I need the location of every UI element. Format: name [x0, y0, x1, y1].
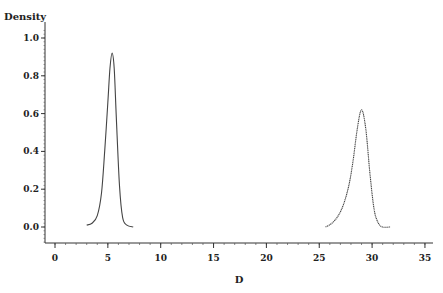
x-tick-label: 35: [419, 253, 432, 263]
x-tick-label: 30: [366, 253, 379, 263]
y-tick-label: 0.2: [23, 184, 39, 194]
y-tick-label: 0.0: [23, 222, 39, 232]
plot-area: [87, 53, 390, 227]
y-tick-label: 1.0: [23, 33, 39, 43]
x-tick-label: 20: [260, 253, 273, 263]
density-curve: [326, 110, 390, 227]
x-tick-label: 10: [154, 253, 167, 263]
density-curve: [87, 53, 134, 227]
y-tick-label: 0.4: [23, 146, 39, 156]
y-tick-label: 0.6: [23, 109, 39, 119]
density-chart: 0.00.20.40.60.81.0 05101520253035 Densit…: [0, 0, 443, 293]
x-tick-label: 5: [105, 253, 111, 263]
x-tick-label: 15: [207, 253, 220, 263]
y-axis: 0.00.20.40.60.81.0: [23, 22, 45, 243]
y-tick-label: 0.8: [23, 71, 39, 81]
y-axis-title: Density: [4, 11, 47, 22]
x-axis-title: D: [235, 274, 244, 285]
x-tick-label: 0: [52, 253, 58, 263]
x-axis: 05101520253035: [45, 243, 433, 263]
x-tick-label: 25: [313, 253, 326, 263]
